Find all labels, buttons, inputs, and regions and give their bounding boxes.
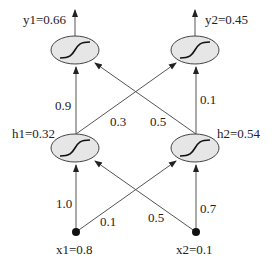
label-x2: x2=0.1	[176, 242, 213, 257]
label-y2: y2=0.45	[205, 12, 248, 27]
label-h1: h1=0.32	[12, 126, 55, 141]
label-y1: y1=0.66	[23, 12, 67, 27]
node-h1	[51, 134, 99, 162]
node-h2	[171, 134, 219, 162]
weight-x1-h1: 1.0	[56, 196, 72, 211]
weight-h2-y1: 0.5	[150, 114, 166, 129]
weight-h1-y1: 0.9	[55, 98, 71, 113]
weight-x2-h1: 0.5	[148, 210, 164, 225]
weight-x2-h2: 0.7	[200, 201, 217, 216]
label-x1: x1=0.8	[56, 242, 93, 257]
weight-h1-y2: 0.3	[110, 114, 126, 129]
node-x1	[72, 228, 80, 236]
node-x2	[192, 228, 200, 236]
label-h2: h2=0.54	[217, 126, 261, 141]
weight-h2-y2: 0.1	[200, 92, 216, 107]
weight-x1-h2: 0.1	[100, 214, 116, 229]
node-y1	[51, 36, 99, 64]
node-y2	[171, 36, 219, 64]
network-diagram: y1=0.66 y2=0.45 h1=0.32 h2=0.54 x1=0.8 x…	[0, 0, 272, 269]
